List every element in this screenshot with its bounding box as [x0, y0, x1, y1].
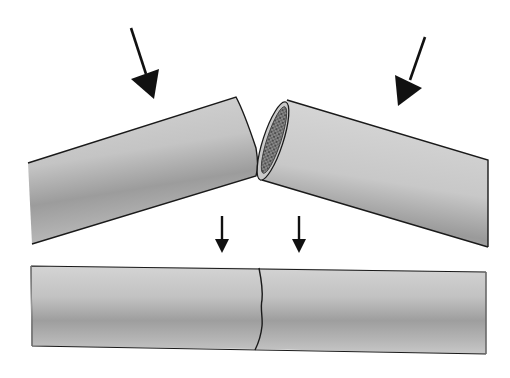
force-arrow-right	[395, 37, 425, 106]
reduction-arrow-right	[292, 216, 306, 253]
fracture-diagram	[0, 0, 510, 378]
right-fragment	[261, 100, 488, 247]
diagram-canvas	[0, 0, 510, 378]
reduction-arrow-left	[215, 216, 229, 253]
force-arrow-left	[131, 28, 159, 99]
